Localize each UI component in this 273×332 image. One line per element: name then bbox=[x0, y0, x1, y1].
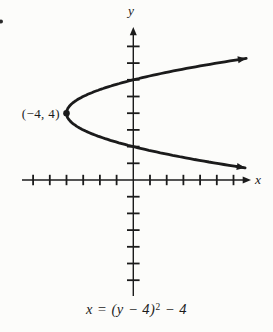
equation-base: x = (y − 4) bbox=[86, 301, 155, 317]
x-axis-arrowhead bbox=[243, 176, 251, 183]
equation-tail: − 4 bbox=[161, 301, 187, 317]
parabola-figure: y x (−4, 4) x = (y − 4)2 − 4 bbox=[0, 0, 273, 332]
list-item-marker-dot bbox=[0, 20, 3, 24]
vertex-point-label: (−4, 4) bbox=[22, 106, 60, 121]
x-axis-label: x bbox=[254, 172, 261, 187]
equation-caption: x = (y − 4)2 − 4 bbox=[0, 301, 273, 318]
graph-generated-layer bbox=[22, 27, 251, 296]
vertex-dot bbox=[63, 110, 70, 117]
y-axis-label: y bbox=[126, 3, 134, 18]
graph-canvas: y x (−4, 4) bbox=[0, 0, 273, 332]
y-axis-arrowhead bbox=[130, 27, 137, 35]
parabola-curve bbox=[67, 58, 247, 167]
